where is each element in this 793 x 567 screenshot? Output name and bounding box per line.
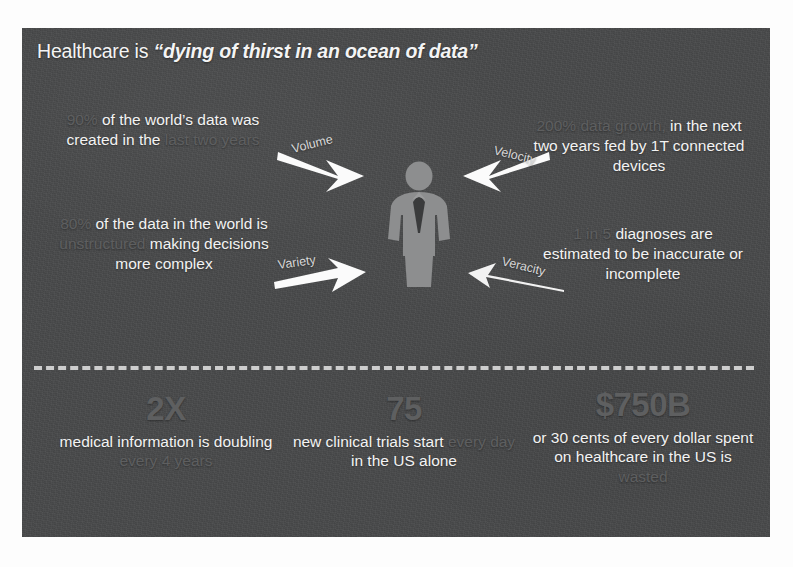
bottom-stat-trials-segment-0: new clinical trials start bbox=[293, 433, 448, 450]
stat-velocity-text: 200% data growth, in the next two years … bbox=[528, 116, 750, 175]
bottom-stat-trials: 75 new clinical trials start every day i… bbox=[290, 390, 518, 471]
stat-variety-segment-0: 80% bbox=[60, 215, 91, 232]
stat-variety-segment-1: of the data in the world is bbox=[91, 215, 268, 232]
bottom-stat-doubling-segment-0: medical information is doubling bbox=[60, 433, 273, 450]
stat-volume-text: 90% of the world’s data was created in t… bbox=[60, 110, 266, 150]
infographic-slide: Healthcare is “dying of thirst in an oce… bbox=[22, 28, 770, 537]
person-with-necktie-icon bbox=[374, 161, 464, 289]
page-title-quote: “dying of thirst in an ocean of data” bbox=[153, 40, 477, 62]
stat-volume-segment-0: 90% bbox=[67, 111, 98, 128]
stat-veracity-segment-0: 1 in 5 bbox=[573, 225, 611, 242]
bottom-stat-doubling-segment-1: every 4 years bbox=[119, 452, 212, 469]
bottom-stat-doubling: 2X medical information is doubling every… bbox=[52, 390, 280, 471]
stat-volume-segment-2: last two years bbox=[165, 131, 260, 148]
stat-variety-segment-2: unstructured bbox=[59, 235, 145, 252]
page-title-lead: Healthcare is bbox=[37, 40, 153, 62]
section-divider bbox=[34, 366, 754, 370]
bottom-stat-waste-segment-1: wasted bbox=[618, 468, 667, 485]
arrow-down-right-thick-icon bbox=[276, 146, 368, 196]
bottom-stat-doubling-figure: 2X bbox=[52, 390, 280, 429]
bottom-stat-waste: $750B or 30 cents of every dollar spent … bbox=[528, 386, 758, 486]
bottom-stat-trials-segment-2: in the US alone bbox=[351, 452, 457, 469]
stat-veracity-text: 1 in 5 diagnoses are estimated to be ina… bbox=[540, 224, 746, 283]
stat-velocity-segment-0: 200% data growth, bbox=[536, 117, 665, 134]
bottom-stat-trials-figure: 75 bbox=[290, 390, 518, 429]
bottom-stat-trials-segment-1: every day bbox=[448, 433, 515, 450]
stat-variety-text: 80% of the data in the world is unstruct… bbox=[56, 214, 272, 273]
bottom-stat-waste-figure: $750B bbox=[528, 386, 758, 425]
page-title: Healthcare is “dying of thirst in an oce… bbox=[37, 40, 478, 63]
bottom-stat-waste-segment-0: or 30 cents of every dollar spent on hea… bbox=[533, 429, 754, 466]
page-canvas: Healthcare is “dying of thirst in an oce… bbox=[0, 0, 793, 567]
